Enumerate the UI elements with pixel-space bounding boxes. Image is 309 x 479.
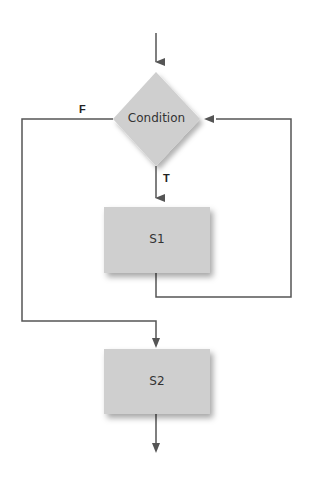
false-arrowhead xyxy=(152,338,160,348)
true-edge-label: T xyxy=(163,172,170,184)
s2-label: S2 xyxy=(104,374,210,388)
condition-label: Condition xyxy=(113,111,200,125)
exit-arrowhead xyxy=(152,443,160,453)
loop-back-arrowhead xyxy=(204,115,214,123)
s1-label: S1 xyxy=(104,232,210,246)
false-edge-label: F xyxy=(79,103,86,115)
